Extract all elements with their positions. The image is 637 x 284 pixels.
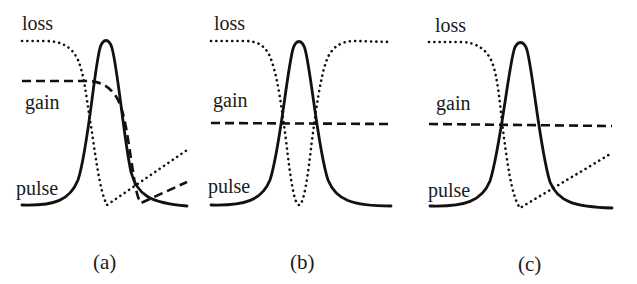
panel-a: loss gain pulse (a) [16, 12, 187, 274]
pulse-label: pulse [428, 179, 470, 202]
gain-label: gain [436, 92, 470, 115]
loss-label: loss [22, 12, 53, 34]
panel-caption: (a) [93, 250, 116, 274]
gain-label: gain [25, 91, 59, 114]
gain-label: gain [213, 89, 247, 112]
panel-caption: (c) [518, 252, 541, 276]
pulse-label: pulse [16, 177, 58, 200]
pulse-label: pulse [208, 175, 250, 198]
loss-label: loss [214, 12, 245, 34]
mode-locking-diagram: loss gain pulse (a) loss gain pulse (b) … [0, 0, 637, 284]
panel-c: loss gain pulse (c) [428, 14, 612, 276]
loss-label: loss [435, 14, 466, 36]
gain-curve [429, 124, 612, 126]
panel-b: loss gain pulse (b) [208, 12, 391, 274]
panel-caption: (b) [290, 250, 315, 274]
gain-curve [211, 123, 391, 124]
